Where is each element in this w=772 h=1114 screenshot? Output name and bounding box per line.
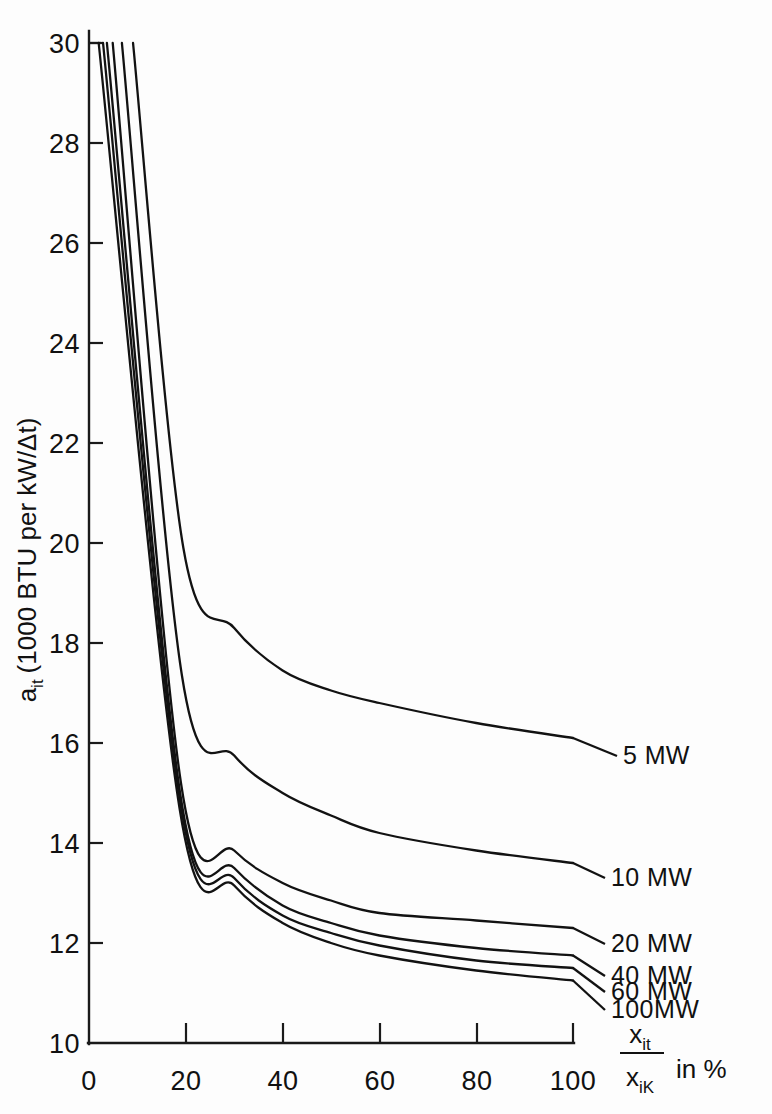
- axes-group: [88, 31, 574, 1044]
- curves-group: [99, 43, 573, 981]
- y-ticks-group: [89, 43, 103, 943]
- leader-line-20-mw: [573, 928, 605, 944]
- series-label-20-mw: 20 MW: [611, 929, 692, 957]
- x-axis-title: xit xiK in %: [620, 1019, 727, 1097]
- y-tick-label-24: 24: [49, 329, 80, 359]
- y-tick-label-10: 10: [49, 1029, 80, 1059]
- x-axis-numerator-subscript: it: [642, 1035, 651, 1054]
- y-tick-label-26: 26: [49, 229, 80, 259]
- curve-10-mw: [122, 43, 573, 863]
- leader-line-5-mw: [573, 738, 617, 756]
- chart-svg: 30 28 26 24 22 20 18 16 14 12 10 0 20 40…: [0, 0, 772, 1114]
- y-axis-rest: (1000 BTU per kW/Δt): [12, 418, 42, 674]
- x-axis-denominator: x: [626, 1062, 639, 1092]
- series-label-10-mw: 10 MW: [611, 863, 692, 891]
- x-axis-unit-suffix: in %: [676, 1054, 727, 1084]
- x-tick-label-0: 0: [81, 1066, 97, 1096]
- svg-text:ait(1000 BTU per kW/Δt): ait(1000 BTU per kW/Δt): [12, 418, 47, 703]
- svg-text:xit: xit: [629, 1019, 651, 1054]
- y-axis-title: ait(1000 BTU per kW/Δt): [12, 418, 47, 703]
- series-label-5-mw: 5 MW: [623, 741, 690, 769]
- y-tick-label-30: 30: [49, 29, 80, 59]
- x-tick-label-40: 40: [267, 1066, 298, 1096]
- leader-line-100mw: [573, 981, 605, 1011]
- curve-60-mw: [103, 43, 573, 968]
- y-tick-label-22: 22: [49, 429, 80, 459]
- series-label-100mw: 100MW: [611, 995, 699, 1023]
- x-tick-labels-group: 0 20 40 60 80 100: [81, 1066, 596, 1096]
- y-tick-label-12: 12: [49, 929, 80, 959]
- y-tick-labels-group: 30 28 26 24 22 20 18 16 14 12 10: [49, 29, 80, 1059]
- x-tick-label-60: 60: [364, 1066, 395, 1096]
- x-tick-label-100: 100: [550, 1066, 597, 1096]
- x-ticks-group: [186, 1023, 477, 1043]
- x-tick-label-20: 20: [170, 1066, 201, 1096]
- svg-text:xiK: xiK: [626, 1062, 655, 1097]
- y-tick-label-18: 18: [49, 629, 80, 659]
- y-tick-label-16: 16: [49, 729, 80, 759]
- x-axis-numerator: x: [629, 1019, 642, 1049]
- chart-figure: 30 28 26 24 22 20 18 16 14 12 10 0 20 40…: [0, 0, 772, 1114]
- y-axis-symbol-subscript: it: [28, 679, 47, 688]
- curve-5-mw: [133, 43, 573, 738]
- y-tick-label-28: 28: [49, 129, 80, 159]
- leader-line-10-mw: [573, 863, 605, 878]
- x-axis-denominator-subscript: iK: [639, 1078, 655, 1097]
- y-tick-label-20: 20: [49, 529, 80, 559]
- y-tick-label-14: 14: [49, 829, 80, 859]
- curve-100-mw: [99, 43, 573, 981]
- y-axis-symbol: a: [12, 687, 42, 702]
- x-tick-label-80: 80: [461, 1066, 492, 1096]
- curve-20-mw: [113, 43, 573, 928]
- series-annotations-group: 5 MW10 MW20 MW40 MW60 MW100MW: [573, 738, 699, 1023]
